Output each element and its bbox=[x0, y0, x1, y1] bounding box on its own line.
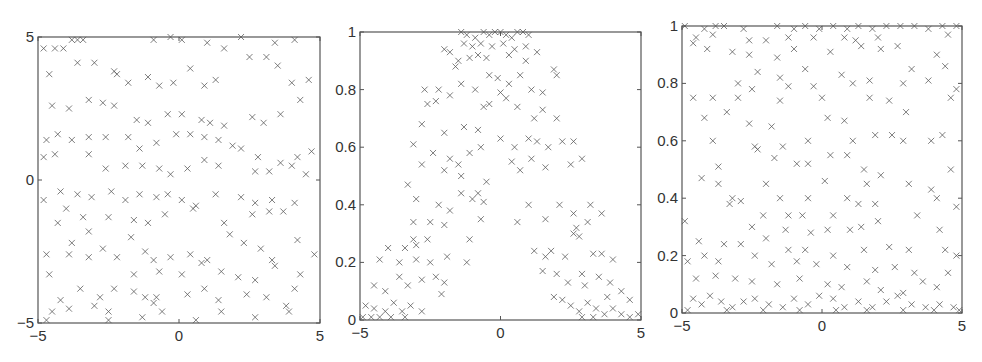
scatter-point bbox=[526, 136, 532, 142]
scatter-point bbox=[405, 182, 411, 188]
scatter-point bbox=[819, 95, 825, 101]
scatter-point bbox=[872, 132, 878, 138]
scatter-point bbox=[215, 137, 221, 143]
scatter-point bbox=[769, 261, 775, 267]
scatter-point bbox=[74, 191, 80, 197]
scatter-point bbox=[275, 63, 281, 69]
scatter-point bbox=[41, 154, 47, 160]
scatter-point bbox=[872, 201, 878, 207]
scatter-point bbox=[66, 106, 72, 112]
scatter-point bbox=[261, 120, 267, 126]
scatter-point bbox=[557, 202, 563, 208]
scatter-point bbox=[41, 45, 47, 51]
scatter-point bbox=[187, 131, 193, 137]
scatter-point bbox=[920, 278, 926, 284]
scatter-point bbox=[391, 300, 397, 306]
x-tick-label: 5 bbox=[958, 317, 966, 334]
scatter-point bbox=[785, 212, 791, 218]
scatter-point bbox=[427, 259, 433, 265]
scatter-point bbox=[266, 208, 272, 214]
scatter-point bbox=[701, 253, 707, 259]
scatter-point bbox=[458, 190, 464, 196]
scatter-point bbox=[478, 41, 484, 47]
scatter-point bbox=[204, 40, 210, 46]
scatter-point bbox=[173, 131, 179, 137]
scatter-point bbox=[822, 178, 828, 184]
scatter-point bbox=[816, 293, 822, 299]
scatter-point bbox=[830, 212, 836, 218]
scatter-point bbox=[215, 163, 221, 169]
scatter-point bbox=[939, 132, 945, 138]
scatter-point bbox=[162, 211, 168, 217]
scatter-point bbox=[895, 43, 901, 49]
scatter-point bbox=[165, 191, 171, 197]
scatter-point bbox=[244, 291, 250, 297]
scatter-point bbox=[791, 46, 797, 52]
scatter-point bbox=[526, 202, 532, 208]
scatter-point bbox=[399, 308, 405, 314]
scatter-point bbox=[799, 212, 805, 218]
scatter-point bbox=[780, 304, 786, 310]
scatter-point bbox=[945, 32, 951, 38]
scatter-point bbox=[106, 317, 112, 323]
scatter-point bbox=[805, 161, 811, 167]
scatter-point bbox=[554, 72, 560, 78]
scatter-point bbox=[168, 171, 174, 177]
scatter-point bbox=[433, 98, 439, 104]
scatter-point bbox=[752, 253, 758, 259]
scatter-point bbox=[593, 305, 599, 311]
scatter-point bbox=[221, 123, 227, 129]
scatter-point bbox=[41, 197, 47, 203]
scatter-point bbox=[402, 314, 408, 320]
y-tick-label: 0.6 bbox=[335, 138, 356, 155]
scatter-point bbox=[839, 284, 845, 290]
scatter-point bbox=[184, 166, 190, 172]
scatter-point bbox=[883, 299, 889, 305]
scatter-point bbox=[444, 254, 450, 260]
scatter-point bbox=[441, 46, 447, 52]
scatter-point bbox=[844, 264, 850, 270]
scatter-point bbox=[151, 300, 157, 306]
scatter-point bbox=[540, 107, 546, 113]
scatter-point bbox=[604, 294, 610, 300]
scatter-point bbox=[461, 41, 467, 47]
scatter-point bbox=[125, 80, 131, 86]
scatter-point bbox=[878, 287, 884, 293]
scatter-point bbox=[699, 301, 705, 307]
scatter-point bbox=[252, 168, 258, 174]
scatter-point bbox=[934, 284, 940, 290]
scatter-point bbox=[199, 260, 205, 266]
scatter-point bbox=[218, 269, 224, 275]
scatter-point bbox=[204, 257, 210, 263]
scatter-point bbox=[746, 52, 752, 58]
scatter-point bbox=[500, 41, 506, 47]
scatter-point bbox=[413, 242, 419, 248]
scatter-point bbox=[427, 219, 433, 225]
scatter-point bbox=[523, 58, 529, 64]
scatter-point bbox=[447, 156, 453, 162]
scatter-point bbox=[371, 282, 377, 288]
scatter-point bbox=[690, 296, 696, 302]
scatter-point bbox=[461, 124, 467, 130]
scatter-point bbox=[715, 181, 721, 187]
scatter-point bbox=[785, 83, 791, 89]
scatter-point bbox=[424, 101, 430, 107]
scatter-point bbox=[43, 251, 49, 257]
scatter-point bbox=[86, 134, 92, 140]
scatter-point bbox=[131, 289, 137, 295]
scatter-point bbox=[724, 307, 730, 313]
scatter-point bbox=[60, 45, 66, 51]
y-tick-label: 0 bbox=[26, 171, 34, 188]
scatter-point bbox=[227, 231, 233, 237]
scatter-point bbox=[749, 224, 755, 230]
scatter-point bbox=[900, 80, 906, 86]
scatter-point bbox=[576, 308, 582, 314]
scatter-point bbox=[531, 115, 537, 121]
scatter-point bbox=[909, 301, 915, 307]
scatter-point bbox=[718, 299, 724, 305]
scatter-point bbox=[495, 75, 501, 81]
scatter-point bbox=[942, 63, 948, 69]
scatter-point bbox=[878, 172, 884, 178]
scatter-point bbox=[825, 115, 831, 121]
scatter-point bbox=[111, 103, 117, 109]
